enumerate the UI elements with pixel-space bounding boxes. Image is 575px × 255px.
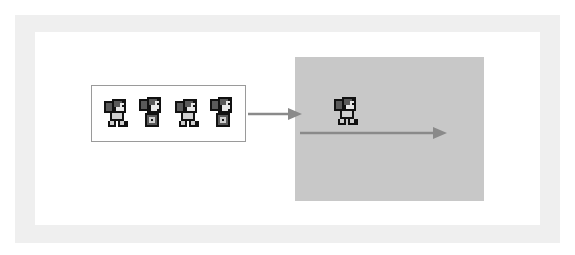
- character-walk-icon: [173, 97, 201, 129]
- sprite-frame-2: [137, 97, 165, 129]
- sprite-frame-3: [173, 97, 201, 129]
- sprite-frame-1: [102, 97, 130, 129]
- character-front-icon: [137, 97, 165, 129]
- flow-arrow-icon: [246, 107, 306, 121]
- sprite-frame-4: [208, 97, 236, 129]
- character-walk-icon: [102, 97, 130, 129]
- character-walk-icon: [332, 95, 360, 127]
- motion-arrow-icon: [299, 126, 453, 140]
- sprite-sheet-strip: [91, 85, 246, 142]
- character-front-icon: [208, 97, 236, 129]
- game-character: [332, 95, 360, 127]
